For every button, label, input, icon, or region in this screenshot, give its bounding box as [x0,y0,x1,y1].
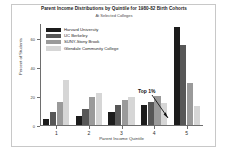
bar [115,105,121,125]
bar [148,102,154,125]
legend-swatch [46,40,61,44]
bar [63,80,69,125]
legend-swatch [46,46,61,50]
x-tick-label: 5 [185,130,188,136]
x-tick [122,126,123,129]
bar [174,27,180,125]
chart-figure: Parent Income Distributions by Quintile … [0,0,228,156]
y-tick-label: 60 [31,36,35,41]
legend-item[interactable]: Harvard University [46,27,120,33]
x-tick-label: 1 [55,130,58,136]
bar [180,45,186,125]
bar [141,105,147,125]
x-axis-label: Parent Income Quintile [40,136,203,141]
y-tick-label: 40 [31,65,35,70]
bar [76,116,82,125]
y-tick-label: 0 [33,124,35,129]
y-tick-label: 20 [31,94,35,99]
legend-swatch [46,28,61,32]
chart-subtitle: At Selected Colleges [0,13,228,18]
y-tick [37,126,40,127]
x-tick [56,126,57,129]
annotation-top-1-percent: Top 1% [138,88,155,94]
x-tick-label: 2 [88,130,91,136]
legend-label: UC Berkeley [64,33,88,39]
legend-label: SUNY-Stony Brook [64,39,99,45]
y-axis-line [40,24,41,126]
bar [161,103,167,125]
legend-label: Glendale Community College [64,46,118,52]
bar [57,102,63,125]
legend-item[interactable]: SUNY-Stony Brook [46,39,120,45]
bar [89,97,95,125]
chart-legend: Harvard UniversityUC BerkeleySUNY-Stony … [46,27,120,52]
x-tick-label: 4 [153,130,156,136]
legend-item[interactable]: Glendale Community College [46,46,120,52]
bar [82,109,88,125]
bar [96,93,102,125]
x-tick-label: 3 [120,130,123,136]
y-axis-label: Percent of Students [18,38,23,75]
legend-item[interactable]: UC Berkeley [46,33,120,39]
legend-swatch [46,34,61,38]
bar [50,112,56,125]
x-tick [89,126,90,129]
bar [122,100,128,125]
bar-group [141,24,167,125]
chart-title: Parent Income Distributions by Quintile … [0,6,228,11]
bar [154,96,160,125]
bar-group [174,24,200,125]
x-tick [154,126,155,129]
bar [187,83,193,125]
x-axis-line [40,125,203,126]
legend-label: Harvard University [64,27,98,33]
bar [108,112,114,125]
bar [128,97,134,125]
bar [194,106,200,125]
x-tick [187,126,188,129]
